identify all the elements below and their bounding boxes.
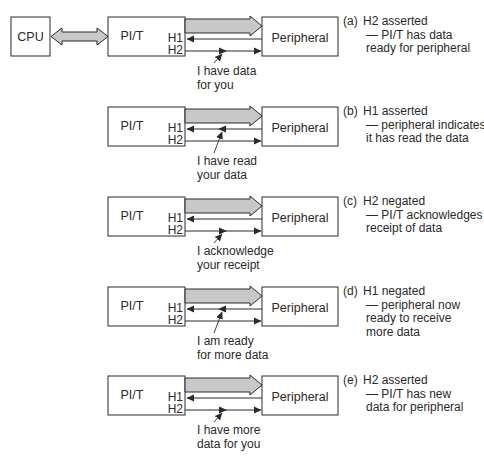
panel-tag: (c) xyxy=(343,195,357,209)
caption-line: ready to receive xyxy=(343,312,484,326)
note-line: I have data xyxy=(197,64,257,78)
note-line: I acknowledge xyxy=(197,244,274,258)
note-line: for you xyxy=(197,78,234,92)
note-pointer-line xyxy=(214,312,222,333)
h2-label: H2 xyxy=(168,223,184,237)
note-pointer-line xyxy=(214,132,222,153)
note-line: for more data xyxy=(197,348,269,362)
caption-line: receipt of data xyxy=(343,222,484,236)
caption-line: — PI/T acknowledges xyxy=(343,209,484,223)
caption-line: H1 negated xyxy=(343,285,484,299)
h1-transition-arrow-icon xyxy=(218,306,226,313)
data-bus-arrow-icon xyxy=(185,375,262,395)
pit-label: PI/T xyxy=(121,299,144,313)
note-pointer-line xyxy=(214,234,222,243)
note-line: data for you xyxy=(197,437,260,451)
caption-line: data for peripheral xyxy=(343,401,484,415)
h2-transition-arrow-icon xyxy=(219,407,227,414)
cpu-label: CPU xyxy=(17,30,43,44)
note-pointer-line xyxy=(214,54,222,63)
h2-label: H2 xyxy=(168,313,184,327)
panel-tag: (e) xyxy=(343,374,358,388)
note-line: your receipt xyxy=(197,258,260,272)
caption-line: H2 negated xyxy=(343,195,484,209)
panel-tag: (b) xyxy=(343,105,358,119)
caption-line: H2 asserted xyxy=(343,374,484,388)
note-pointer-line xyxy=(214,413,222,422)
caption-line: it has read the data xyxy=(343,132,484,146)
pit-label: PI/T xyxy=(121,209,144,223)
caption-line: more data xyxy=(343,326,484,340)
caption-line: H1 asserted xyxy=(343,105,484,119)
h2-label: H2 xyxy=(168,133,184,147)
note-line: I have more xyxy=(197,423,261,437)
note-line: your data xyxy=(197,168,247,182)
panel-caption-e: (e)H2 asserted— PI/T has newdata for per… xyxy=(343,374,484,415)
panel-tag: (a) xyxy=(343,15,358,29)
panel-tag: (d) xyxy=(343,285,358,299)
data-bus-arrow-icon xyxy=(185,106,262,126)
cpu-block: CPU xyxy=(11,17,50,56)
peripheral-label: Peripheral xyxy=(272,211,329,225)
h1-transition-arrow-icon xyxy=(218,126,226,133)
data-bus-arrow-icon xyxy=(185,16,262,36)
pit-label: PI/T xyxy=(121,29,144,43)
note-line: I am ready xyxy=(197,334,254,348)
h2-transition-arrow-icon xyxy=(219,48,227,55)
panel-c: PI/TH1H2PeripheralI acknowledgeyour rece… xyxy=(108,196,338,272)
peripheral-label: Peripheral xyxy=(272,301,329,315)
caption-line: — PI/T has data xyxy=(343,29,484,43)
panel-a: PI/TH1H2PeripheralI have datafor you xyxy=(108,16,338,92)
data-bus-arrow-icon xyxy=(185,286,262,306)
note-line: I have read xyxy=(197,154,257,168)
pit-label: PI/T xyxy=(121,388,144,402)
h2-label: H2 xyxy=(168,43,184,57)
caption-line: H2 asserted xyxy=(343,15,484,29)
peripheral-label: Peripheral xyxy=(272,390,329,404)
cpu-pit-bidirectional-bus-icon xyxy=(51,28,108,45)
caption-line: ready for peripheral xyxy=(343,42,484,56)
panel-d: PI/TH1H2PeripheralI am readyfor more dat… xyxy=(108,286,338,362)
peripheral-label: Peripheral xyxy=(272,31,329,45)
h2-label: H2 xyxy=(168,402,184,416)
data-bus-arrow-icon xyxy=(185,196,262,216)
panel-caption-d: (d)H1 negated— peripheral nowready to re… xyxy=(343,285,484,339)
caption-line: — peripheral now xyxy=(343,299,484,313)
panel-b: PI/TH1H2PeripheralI have readyour data xyxy=(108,106,338,182)
panel-caption-a: (a)H2 asserted— PI/T has dataready for p… xyxy=(343,15,484,56)
caption-line: — PI/T has new xyxy=(343,388,484,402)
caption-line: — peripheral indicates xyxy=(343,119,484,133)
panel-e: PI/TH1H2PeripheralI have moredata for yo… xyxy=(108,375,338,451)
pit-label: PI/T xyxy=(121,119,144,133)
h2-transition-arrow-icon xyxy=(219,228,227,235)
panel-caption-c: (c)H2 negated— PI/T acknowledgesreceipt … xyxy=(343,195,484,236)
peripheral-label: Peripheral xyxy=(272,121,329,135)
panel-caption-b: (b)H1 asserted— peripheral indicatesit h… xyxy=(343,105,484,146)
